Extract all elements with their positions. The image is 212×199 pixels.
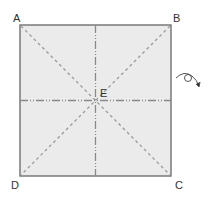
point-label-d: D [11, 180, 19, 191]
point-label-e: E [100, 88, 107, 99]
point-label-b: B [173, 13, 180, 24]
point-label-a: A [13, 13, 20, 24]
point-label-c: C [175, 180, 183, 191]
crease-pattern-diagram [0, 0, 212, 199]
turn-over-arrow-icon [176, 73, 200, 87]
